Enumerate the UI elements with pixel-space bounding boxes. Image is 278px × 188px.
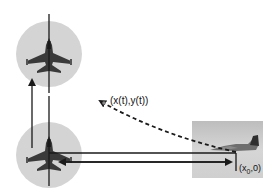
diagram-canvas	[0, 0, 278, 188]
pursuit-diagram: (x(t),y(t)) (x0,0)	[0, 0, 278, 188]
trajectory-point-label: (x(t),y(t))	[110, 95, 148, 106]
start-point-suffix: ,0)	[250, 163, 261, 173]
start-point-prefix: (x	[239, 163, 247, 173]
start-point-label: (x0,0)	[239, 163, 261, 175]
